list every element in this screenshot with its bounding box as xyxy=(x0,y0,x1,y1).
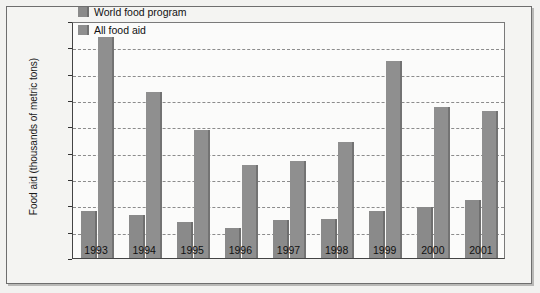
legend-item-world-food-program: World food program xyxy=(78,4,187,20)
legend-item-all-food-aid: All food aid xyxy=(78,22,187,38)
legend-label-series-0: World food program xyxy=(94,6,187,18)
gridline xyxy=(73,49,504,50)
chart-figure: Food aid (thousands of metric tons) 0200… xyxy=(0,0,540,293)
bar-2000-series-1 xyxy=(434,107,450,258)
y-axis-tick-mark xyxy=(68,259,72,260)
legend-label-series-1: All food aid xyxy=(94,24,146,36)
x-axis-tick-label: 2001 xyxy=(451,244,511,256)
y-axis-tick-mark xyxy=(68,206,72,207)
gridline xyxy=(73,76,504,77)
y-axis-tick-mark xyxy=(68,48,72,49)
bar-2001-series-1 xyxy=(482,111,498,258)
bar-1998-series-1 xyxy=(338,142,354,258)
y-axis-tick-mark xyxy=(68,180,72,181)
gridline xyxy=(73,102,504,103)
y-axis-tick-mark xyxy=(68,154,72,155)
legend-swatch-icon-series-1 xyxy=(78,25,89,35)
bar-1995-series-1 xyxy=(194,130,210,258)
y-axis-title: Food aid (thousands of metric tons) xyxy=(28,32,39,242)
bar-1999-series-1 xyxy=(386,61,402,259)
bar-1994-series-1 xyxy=(146,92,162,258)
y-axis-tick-mark xyxy=(68,75,72,76)
y-axis-tick-mark xyxy=(68,22,72,23)
bar-1993-series-1 xyxy=(98,37,114,258)
plot-area xyxy=(72,22,505,259)
y-axis-tick-mark xyxy=(68,233,72,234)
chart-legend: World food program All food aid xyxy=(78,4,187,40)
legend-swatch-icon-series-0 xyxy=(78,7,89,17)
y-axis-tick-mark xyxy=(68,101,72,102)
y-axis-tick-mark xyxy=(68,127,72,128)
